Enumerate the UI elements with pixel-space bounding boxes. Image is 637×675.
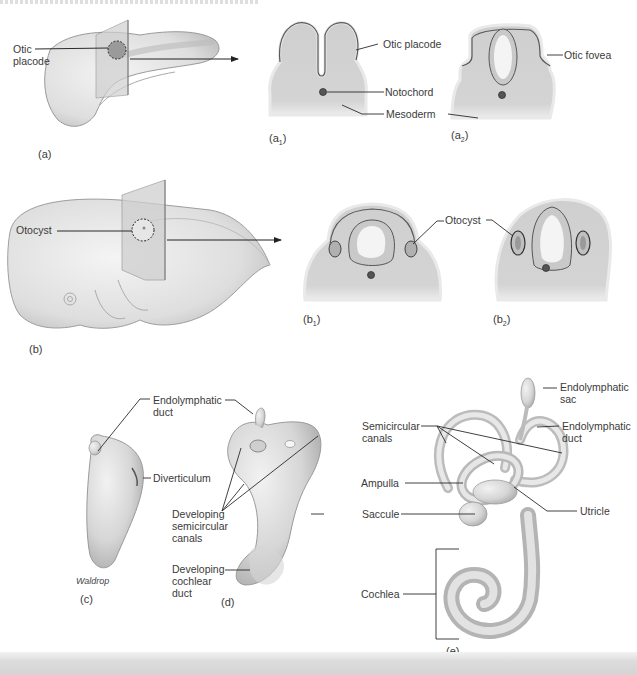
label-developing-semicircular-canals: Developing semicircular canals: [172, 508, 230, 544]
label-saccule: Saccule: [362, 508, 399, 520]
panel-a2-cross-section: [448, 25, 563, 118]
caption-b2: (b2): [493, 313, 510, 327]
inner-ear-development-figure: Otic placode (a) Otic placode Notochord …: [0, 0, 637, 675]
illustrator-credit: Waldrop: [76, 576, 109, 586]
label-endolymphatic-duct-e: Endolymphatic duct: [562, 420, 632, 444]
label-notochord: Notochord: [385, 86, 433, 98]
panel-d-developing-labyrinth: [222, 400, 324, 585]
label-otocyst-b1: Otocyst: [445, 214, 481, 226]
label-utricle: Utricle: [580, 505, 610, 517]
panel-b1-cross-section: [305, 204, 444, 300]
caption-d: (d): [221, 596, 234, 608]
label-semicircular-canals: Semicircular canals: [362, 420, 422, 444]
caption-b1: (b1): [303, 313, 320, 327]
label-cochlea: Cochlea: [361, 588, 400, 600]
label-mesoderm: Mesoderm: [386, 108, 436, 120]
panel-b-embryo: [8, 180, 281, 328]
panel-a-embryo: [35, 20, 238, 126]
caption-a1: (a1): [269, 132, 286, 146]
bottom-scan-shadow: [0, 652, 637, 675]
label-developing-cochlear-duct: Developing cochlear duct: [172, 563, 227, 599]
label-otic-fovea: Otic fovea: [564, 49, 611, 61]
caption-a: (a): [38, 148, 51, 160]
label-diverticulum: Diverticulum: [153, 472, 211, 484]
caption-c: (c): [80, 593, 93, 605]
panel-b2-cross-section: [486, 200, 611, 300]
figure-artwork: [0, 0, 637, 675]
label-endolymphatic-sac: Endolymphatic sac: [560, 381, 630, 405]
label-otocyst-b: Otocyst: [16, 224, 52, 236]
panel-a1-cross-section: [270, 23, 384, 115]
label-otic-placode-a1: Otic placode: [383, 38, 441, 50]
caption-b: (b): [29, 343, 42, 355]
panel-c-otocyst-3d: [87, 399, 151, 568]
label-otic-placode-a: Otic placode: [13, 43, 49, 67]
label-ampulla: Ampulla: [361, 477, 399, 489]
caption-a2: (a2): [451, 129, 468, 143]
panel-e-mature-labyrinth: [401, 378, 577, 639]
label-endolymphatic-duct-c: Endolymphatic duct: [153, 394, 223, 418]
